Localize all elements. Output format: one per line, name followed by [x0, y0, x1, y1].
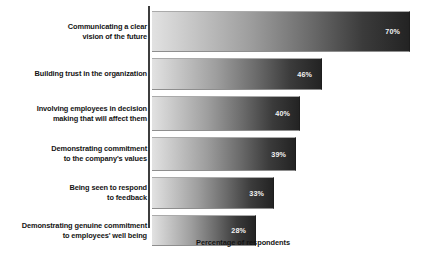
category-label: Building trust in the organization [7, 69, 147, 79]
bar-value-label: 33% [249, 189, 273, 198]
bar[interactable]: 33% [152, 177, 274, 209]
category-label: Communicating a clear vision of the futu… [7, 22, 147, 41]
bar-row: Building trust in the organization 46% [0, 58, 443, 90]
bar-chart-figure: Communicating a clear vision of the futu… [0, 0, 443, 269]
bar-value-label: 40% [275, 109, 299, 118]
bar-track: 70% [152, 11, 410, 52]
value-axis-line [148, 6, 150, 228]
category-label: Demonstrating commitment to the company'… [7, 144, 147, 163]
category-label: Involving employees in decision making t… [7, 104, 147, 123]
bar-track: 33% [152, 177, 274, 209]
bar-value-label: 70% [385, 27, 409, 36]
bar[interactable]: 46% [152, 58, 322, 90]
category-label: Being seen to respond to feedback [7, 183, 147, 202]
bar-value-label: 46% [297, 70, 321, 79]
bar-track: 39% [152, 137, 296, 171]
bar-row: Demonstrating commitment to the company'… [0, 137, 443, 171]
bar-track: 40% [152, 96, 300, 131]
bar-row: Communicating a clear vision of the futu… [0, 11, 443, 52]
bar-track: 46% [152, 58, 322, 90]
bar-value-label: 28% [231, 226, 255, 235]
bar-row: Being seen to respond to feedback 33% [0, 177, 443, 209]
bar-value-label: 39% [271, 150, 295, 159]
bar[interactable]: 40% [152, 96, 300, 131]
bar-row: Involving employees in decision making t… [0, 96, 443, 131]
axis-caption: Percentage of respondents [196, 238, 290, 247]
bar[interactable]: 70% [152, 11, 410, 52]
category-label: Demonstrating genuine commitment to empl… [7, 221, 147, 240]
bar[interactable]: 39% [152, 137, 296, 171]
plot-area: Communicating a clear vision of the futu… [0, 9, 443, 231]
